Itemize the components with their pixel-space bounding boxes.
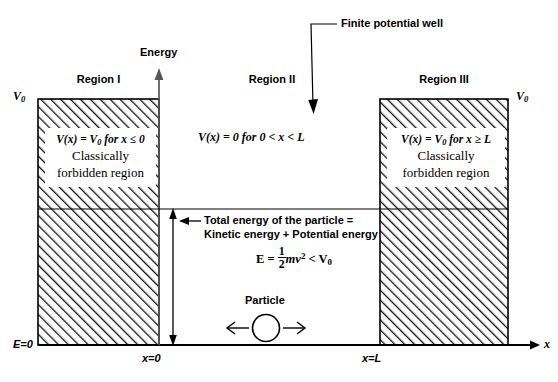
region-3-potential-expression: V(x) = V0 for x ≥ L [389, 132, 503, 148]
region-3-descriptor-line1: Classically [389, 148, 503, 164]
x-tick-label-L: x=L [362, 352, 381, 364]
origin-energy-label: E=0 [13, 338, 33, 350]
x-axis-arrowhead [530, 341, 540, 350]
region-2-expr-prefix: V(x) = 0 for 0 < x < L [198, 130, 305, 144]
formula-fraction: 12 [278, 245, 286, 270]
region-3-descriptor-line2: forbidden region [389, 165, 503, 181]
region-1-title: Region I [38, 73, 159, 85]
v0-left-subscript: 0 [21, 94, 25, 104]
region-3-expr-prefix: V(x) = V [401, 133, 442, 145]
energy-note-leader-arrowhead [179, 217, 189, 225]
region-1-potential-expression: V(x) = V0 for x ≤ 0 [47, 132, 154, 148]
callout-leader-line [311, 24, 337, 105]
region-1-expr-prefix: V(x) = V [56, 133, 97, 145]
energy-note-line2: Kinetic energy + Potential energy [204, 227, 384, 241]
region-1-descriptor-line2: forbidden region [47, 165, 154, 181]
formula-fraction-denominator: 2 [278, 257, 286, 270]
formula-comparison: < V [305, 251, 327, 265]
energy-note-block: Total energy of the particle = Kinetic e… [204, 213, 384, 270]
energy-axis-label: Energy [140, 46, 177, 58]
formula-body: mv [286, 251, 301, 265]
barrier-level-label-right: V0 [516, 89, 528, 104]
region-1-descriptor-line1: Classically [47, 148, 154, 164]
particle-circle [253, 315, 280, 342]
v0-left-symbol: V [13, 89, 21, 103]
region-3-expr-suffix: for x ≥ L [446, 133, 491, 145]
particle-label: Particle [245, 294, 285, 306]
formula-fraction-numerator: 1 [278, 245, 286, 257]
region-3-textbox: V(x) = V0 for x ≥ L Classically forbidde… [387, 128, 505, 187]
callout-label: Finite potential well [341, 17, 443, 29]
v0-right-subscript: 0 [524, 94, 528, 104]
energy-note-formula: E = 12mv2 < V0 [204, 245, 384, 270]
energy-note-line1: Total energy of the particle = [204, 213, 384, 227]
x-tick-label-zero: x=0 [142, 352, 161, 364]
region-3-title: Region III [380, 73, 508, 85]
x-axis-label: x [544, 337, 550, 352]
formula-comparison-subscript: 0 [328, 257, 333, 267]
v0-right-symbol: V [516, 89, 524, 103]
diagram-vector-layer [0, 0, 558, 382]
finite-potential-well-diagram: Finite potential well Energy V0 V0 Regio… [0, 0, 558, 382]
region-2-potential-expression: V(x) = 0 for 0 < x < L [198, 130, 305, 145]
energy-measure-arrow-head-top [169, 208, 177, 219]
region-1-expr-suffix: for x ≤ 0 [101, 133, 144, 145]
region-2-title: Region II [212, 73, 332, 85]
callout-arrowhead [308, 99, 318, 114]
barrier-level-label-left: V0 [13, 89, 25, 104]
region-1-textbox: V(x) = V0 for x ≤ 0 Classically forbidde… [45, 128, 156, 187]
formula-lhs: E = [256, 251, 278, 265]
